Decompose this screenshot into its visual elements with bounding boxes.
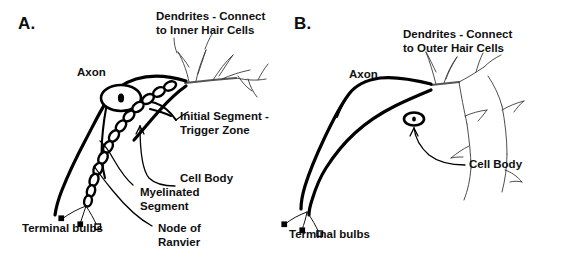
- label-dendrites-a: Dendrites - Connect to Inner Hair Cells: [156, 10, 265, 37]
- label-axon-a: Axon: [77, 66, 106, 80]
- label-initial-segment-a: Initial Segment - Trigger Zone: [180, 110, 269, 137]
- axon-outline-b: [301, 77, 431, 215]
- label-cell-body-a: Cell Body: [180, 172, 233, 186]
- neuron-diagram-figure: A.: [0, 0, 561, 262]
- label-dendrites-b: Dendrites - Connect to Outer Hair Cells: [403, 28, 512, 55]
- label-node-of-ranvier-a: Node of Ranvier: [158, 222, 201, 249]
- label-myelinated-segment-a: Myelinated Segment: [140, 186, 199, 213]
- label-axon-b: Axon: [349, 68, 378, 82]
- leader-lines-b: [410, 128, 465, 165]
- dendrite-arbor-b: [426, 52, 524, 200]
- dendrite-arbor-a: [174, 34, 268, 97]
- label-terminal-bulbs-b: Terminal bulbs: [289, 228, 370, 242]
- cell-body-b: [404, 113, 424, 126]
- panel-b: B.: [281, 0, 561, 262]
- label-terminal-bulbs-a: Terminal bulbs: [22, 222, 103, 236]
- label-cell-body-b: Cell Body: [469, 158, 522, 172]
- panel-a: A.: [0, 0, 280, 262]
